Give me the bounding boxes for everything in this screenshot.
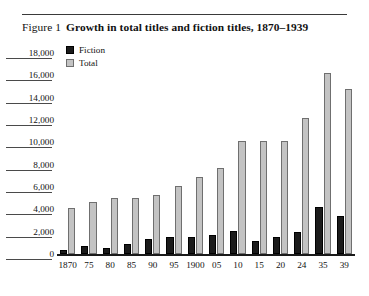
bar-total	[260, 141, 267, 254]
bar-total	[324, 73, 331, 254]
legend-label: Total	[79, 58, 98, 68]
y-axis-tick-rule	[6, 80, 52, 81]
bar-group	[227, 53, 248, 254]
figure-title: Growth in total titles and fiction title…	[66, 21, 308, 33]
bar-fiction	[273, 237, 280, 254]
y-axis-tick-label: 16,000	[6, 71, 54, 80]
legend-label: Fiction	[79, 45, 105, 55]
bar-total	[345, 89, 352, 254]
bar-fiction	[145, 239, 152, 254]
bar-group	[312, 53, 333, 254]
bar-fiction	[166, 237, 173, 254]
bar-total	[281, 141, 288, 254]
figure-top-rule	[22, 14, 347, 15]
bar-fiction	[209, 235, 216, 254]
plot-area	[57, 53, 355, 254]
y-axis-tick-label: 10,000	[6, 138, 54, 147]
bar-fiction	[81, 246, 88, 254]
bar-fiction	[315, 207, 322, 254]
legend-swatch-fiction	[66, 46, 74, 54]
bar-total	[89, 202, 96, 254]
bar-group	[121, 53, 142, 254]
bar-group	[270, 53, 291, 254]
bar-fiction	[103, 248, 110, 254]
bar-fiction	[60, 250, 67, 254]
bar-fiction	[252, 241, 259, 254]
bar-group	[291, 53, 312, 254]
bar-fiction	[337, 216, 344, 254]
legend-item: Fiction	[66, 44, 156, 55]
y-axis-tick-rule	[6, 58, 52, 59]
x-axis-tick-label: 39	[331, 259, 358, 272]
bar-group	[249, 53, 270, 254]
x-axis-baseline	[57, 254, 355, 256]
y-axis-tick-rule	[6, 192, 52, 193]
y-axis-tick-label: 18,000	[6, 49, 54, 58]
legend-swatch-total	[66, 59, 74, 67]
bar-total	[175, 186, 182, 254]
y-axis-tick-rule	[6, 125, 52, 126]
y-axis-tick-rule	[6, 237, 52, 238]
bar-total	[68, 208, 75, 254]
y-axis: 02,0004,0006,0008,00010,00012,00014,0001…	[0, 53, 54, 254]
y-axis-tick-label: 4,000	[6, 205, 54, 214]
chart-legend: FictionTotal	[66, 44, 156, 70]
bar-fiction	[188, 237, 195, 254]
bar-total	[196, 177, 203, 254]
figure-caption: Figure 1Growth in total titles and ficti…	[22, 19, 352, 35]
bar-group	[206, 53, 227, 254]
bar-group	[100, 53, 121, 254]
y-axis-tick-label: 6,000	[6, 183, 54, 192]
bar-total	[153, 195, 160, 254]
bar-group	[163, 53, 184, 254]
bar-group	[142, 53, 163, 254]
y-axis-tick-rule	[6, 147, 52, 148]
bar-total	[111, 198, 118, 254]
y-axis-tick-rule	[6, 170, 52, 171]
bar-group	[334, 53, 355, 254]
bar-total	[217, 168, 224, 254]
bar-total	[302, 118, 309, 254]
legend-item: Total	[66, 57, 156, 68]
bar-fiction	[294, 232, 301, 254]
figure-label: Figure 1	[22, 21, 61, 33]
y-axis-tick-label: 14,000	[6, 93, 54, 102]
bar-total	[132, 198, 139, 254]
y-axis-tick-rule	[6, 259, 52, 260]
bar-group	[185, 53, 206, 254]
x-axis-labels: 18707580859095190005101520243539	[57, 259, 355, 273]
y-axis-tick-label: 12,000	[6, 116, 54, 125]
bar-fiction	[230, 231, 237, 254]
bar-fiction	[124, 244, 131, 254]
bar-group	[57, 53, 78, 254]
y-axis-tick-label: 8,000	[6, 160, 54, 169]
y-axis-tick-rule	[6, 103, 52, 104]
bar-total	[238, 141, 245, 254]
y-axis-tick-rule	[6, 214, 52, 215]
bar-group	[78, 53, 99, 254]
y-axis-tick-label: 0	[6, 250, 54, 259]
figure-container: Figure 1Growth in total titles and ficti…	[0, 0, 369, 296]
y-axis-tick-label: 2,000	[6, 227, 54, 236]
